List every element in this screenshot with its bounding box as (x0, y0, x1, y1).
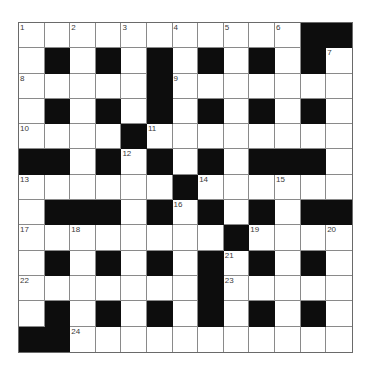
crossword-cell[interactable] (275, 251, 301, 276)
crossword-cell[interactable] (96, 276, 122, 301)
crossword-cell[interactable] (70, 175, 96, 200)
crossword-cell[interactable]: 5 (224, 23, 250, 48)
crossword-cell[interactable] (96, 23, 122, 48)
crossword-cell[interactable] (275, 48, 301, 73)
crossword-cell[interactable] (275, 74, 301, 99)
crossword-cell[interactable] (121, 175, 147, 200)
crossword-cell[interactable] (70, 74, 96, 99)
crossword-cell[interactable] (326, 74, 352, 99)
crossword-cell[interactable] (198, 74, 224, 99)
crossword-cell[interactable] (249, 327, 275, 352)
crossword-cell[interactable] (173, 225, 199, 250)
crossword-cell[interactable] (19, 251, 45, 276)
crossword-cell[interactable] (326, 301, 352, 326)
crossword-cell[interactable] (224, 99, 250, 124)
crossword-cell[interactable] (198, 124, 224, 149)
crossword-cell[interactable] (301, 225, 327, 250)
crossword-cell[interactable]: 10 (19, 124, 45, 149)
crossword-cell[interactable] (326, 276, 352, 301)
crossword-cell[interactable]: 22 (19, 276, 45, 301)
crossword-cell[interactable] (70, 276, 96, 301)
crossword-cell[interactable] (326, 327, 352, 352)
crossword-cell[interactable] (96, 74, 122, 99)
crossword-cell[interactable] (224, 48, 250, 73)
crossword-cell[interactable] (173, 48, 199, 73)
crossword-cell[interactable]: 20 (326, 225, 352, 250)
crossword-cell[interactable] (147, 327, 173, 352)
crossword-cell[interactable] (121, 200, 147, 225)
crossword-cell[interactable] (301, 327, 327, 352)
crossword-cell[interactable] (19, 48, 45, 73)
crossword-cell[interactable] (45, 225, 71, 250)
crossword-cell[interactable] (70, 48, 96, 73)
crossword-cell[interactable] (121, 99, 147, 124)
crossword-cell[interactable] (45, 74, 71, 99)
crossword-cell[interactable] (121, 74, 147, 99)
crossword-cell[interactable] (70, 99, 96, 124)
crossword-cell[interactable] (45, 23, 71, 48)
crossword-cell[interactable] (121, 48, 147, 73)
crossword-cell[interactable] (121, 225, 147, 250)
crossword-cell[interactable] (275, 200, 301, 225)
crossword-cell[interactable]: 6 (275, 23, 301, 48)
crossword-cell[interactable] (249, 23, 275, 48)
crossword-cell[interactable] (19, 301, 45, 326)
crossword-cell[interactable] (326, 99, 352, 124)
crossword-cell[interactable] (173, 301, 199, 326)
crossword-cell[interactable] (198, 225, 224, 250)
crossword-cell[interactable] (275, 301, 301, 326)
crossword-cell[interactable]: 24 (70, 327, 96, 352)
crossword-cell[interactable]: 16 (173, 200, 199, 225)
crossword-cell[interactable] (224, 327, 250, 352)
crossword-cell[interactable] (121, 276, 147, 301)
crossword-cell[interactable] (70, 301, 96, 326)
crossword-cell[interactable] (249, 74, 275, 99)
crossword-cell[interactable]: 21 (224, 251, 250, 276)
crossword-cell[interactable]: 11 (147, 124, 173, 149)
crossword-cell[interactable] (173, 251, 199, 276)
crossword-cell[interactable] (301, 124, 327, 149)
crossword-cell[interactable] (70, 251, 96, 276)
crossword-cell[interactable] (70, 124, 96, 149)
crossword-cell[interactable] (173, 276, 199, 301)
crossword-cell[interactable]: 23 (224, 276, 250, 301)
crossword-cell[interactable] (198, 327, 224, 352)
crossword-cell[interactable]: 8 (19, 74, 45, 99)
crossword-cell[interactable] (173, 327, 199, 352)
crossword-cell[interactable] (326, 149, 352, 174)
crossword-cell[interactable]: 19 (249, 225, 275, 250)
crossword-cell[interactable] (96, 225, 122, 250)
crossword-cell[interactable] (275, 99, 301, 124)
crossword-cell[interactable] (249, 276, 275, 301)
crossword-cell[interactable]: 14 (198, 175, 224, 200)
crossword-cell[interactable] (19, 99, 45, 124)
crossword-cell[interactable] (198, 23, 224, 48)
crossword-cell[interactable] (45, 175, 71, 200)
crossword-cell[interactable]: 17 (19, 225, 45, 250)
crossword-cell[interactable] (249, 124, 275, 149)
crossword-cell[interactable] (173, 99, 199, 124)
crossword-cell[interactable] (96, 327, 122, 352)
crossword-cell[interactable]: 7 (326, 48, 352, 73)
crossword-cell[interactable] (224, 149, 250, 174)
crossword-cell[interactable] (121, 327, 147, 352)
crossword-cell[interactable]: 13 (19, 175, 45, 200)
crossword-cell[interactable] (326, 251, 352, 276)
crossword-cell[interactable] (224, 175, 250, 200)
crossword-cell[interactable]: 2 (70, 23, 96, 48)
crossword-cell[interactable] (173, 124, 199, 149)
crossword-cell[interactable] (173, 149, 199, 174)
crossword-cell[interactable] (249, 175, 275, 200)
crossword-cell[interactable] (301, 276, 327, 301)
crossword-cell[interactable] (275, 276, 301, 301)
crossword-cell[interactable] (45, 124, 71, 149)
crossword-cell[interactable] (147, 23, 173, 48)
crossword-cell[interactable] (147, 225, 173, 250)
crossword-cell[interactable] (70, 149, 96, 174)
crossword-cell[interactable] (275, 124, 301, 149)
crossword-cell[interactable] (96, 175, 122, 200)
crossword-cell[interactable] (224, 200, 250, 225)
crossword-cell[interactable] (301, 74, 327, 99)
crossword-cell[interactable] (45, 276, 71, 301)
crossword-cell[interactable]: 12 (121, 149, 147, 174)
